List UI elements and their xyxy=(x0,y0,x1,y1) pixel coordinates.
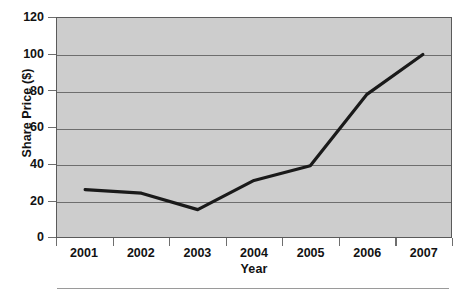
x-tick-mark-6 xyxy=(395,238,396,246)
series-line-share-price xyxy=(57,18,451,237)
x-tick-label-2006: 2006 xyxy=(337,246,397,260)
x-tick-mark-0 xyxy=(56,238,57,246)
y-tick-mark-100 xyxy=(48,54,56,55)
x-tick-label-2004: 2004 xyxy=(224,246,284,260)
x-tick-label-2001: 2001 xyxy=(54,246,114,260)
x-tick-label-2002: 2002 xyxy=(111,246,171,260)
x-tick-mark-3 xyxy=(226,238,227,246)
y-tick-label-40: 40 xyxy=(4,157,44,171)
y-tick-mark-60 xyxy=(48,127,56,128)
x-tick-label-2005: 2005 xyxy=(281,246,341,260)
bottom-divider xyxy=(57,288,449,289)
x-tick-mark-7 xyxy=(452,238,453,246)
x-tick-label-2007: 2007 xyxy=(394,246,454,260)
x-tick-mark-5 xyxy=(339,238,340,246)
y-tick-label-100: 100 xyxy=(4,47,44,61)
y-tick-label-20: 20 xyxy=(4,194,44,208)
y-tick-label-120: 120 xyxy=(4,10,44,24)
x-tick-mark-1 xyxy=(113,238,114,246)
y-tick-mark-20 xyxy=(48,201,56,202)
y-tick-mark-80 xyxy=(48,90,56,91)
y-tick-mark-120 xyxy=(48,17,56,18)
x-tick-mark-4 xyxy=(282,238,283,246)
y-tick-mark-40 xyxy=(48,164,56,165)
x-tick-mark-2 xyxy=(169,238,170,246)
y-tick-label-80: 80 xyxy=(4,84,44,98)
chart-figure: Share Price ($) 120 100 80 60 40 20 0 20… xyxy=(0,0,459,295)
y-tick-label-0: 0 xyxy=(4,230,44,244)
x-axis-title: Year xyxy=(56,262,452,276)
plot-area xyxy=(56,17,452,238)
y-tick-mark-0 xyxy=(48,237,56,238)
x-tick-label-2003: 2003 xyxy=(167,246,227,260)
y-tick-label-60: 60 xyxy=(4,120,44,134)
